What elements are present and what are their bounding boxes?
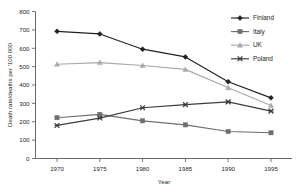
y-tick-label-100: 100 bbox=[19, 136, 30, 143]
datapoint-poland-1970 bbox=[55, 123, 60, 128]
datapoint-italy-1980 bbox=[140, 119, 144, 123]
y-tick-label-800: 800 bbox=[19, 8, 30, 15]
legend-label-italy: Italy bbox=[253, 28, 266, 36]
legend-marker-poland bbox=[238, 56, 243, 61]
datapoint-italy-1985 bbox=[183, 123, 187, 127]
y-tick-label-500: 500 bbox=[19, 63, 30, 70]
legend-item-italy[interactable]: Italy bbox=[231, 28, 266, 36]
y-tick-label-700: 700 bbox=[19, 26, 30, 33]
chart-legend: FinlandItalyUKPoland bbox=[231, 14, 274, 62]
series-line-italy bbox=[57, 114, 271, 132]
legend-item-poland[interactable]: Poland bbox=[231, 55, 273, 62]
legend-item-uk[interactable]: UK bbox=[231, 41, 263, 48]
datapoint-poland-1980 bbox=[140, 105, 145, 110]
legend-label-poland: Poland bbox=[253, 55, 273, 62]
datapoint-finland-1980 bbox=[140, 47, 145, 52]
x-tick-label-1985: 1985 bbox=[179, 165, 193, 172]
y-axis-ticks bbox=[32, 12, 36, 159]
series-poland bbox=[55, 100, 274, 128]
series-line-uk bbox=[57, 63, 271, 106]
legend-item-finland[interactable]: Finland bbox=[231, 14, 274, 21]
datapoint-italy-1970 bbox=[55, 116, 59, 120]
x-axis-ticks bbox=[57, 159, 271, 163]
datapoint-poland-1990 bbox=[226, 100, 231, 105]
series-uk bbox=[55, 60, 274, 107]
y-axis-tick-labels: 0 100 200 300 400 500 600 700 800 bbox=[19, 8, 30, 162]
legend-label-finland: Finland bbox=[253, 14, 274, 21]
datapoint-finland-1975 bbox=[97, 31, 102, 36]
datapoint-poland-1995 bbox=[269, 109, 274, 114]
y-tick-label-400: 400 bbox=[19, 81, 30, 88]
datapoint-finland-1970 bbox=[55, 29, 60, 34]
x-tick-label-1980: 1980 bbox=[136, 165, 150, 172]
x-tick-label-1995: 1995 bbox=[264, 165, 278, 172]
x-tick-label-1975: 1975 bbox=[93, 165, 107, 172]
x-tick-label-1990: 1990 bbox=[221, 165, 235, 172]
y-tick-label-600: 600 bbox=[19, 45, 30, 52]
x-axis-title: Year bbox=[158, 178, 170, 185]
y-axis-title: Death rate/deaths per '100 000 bbox=[6, 42, 13, 126]
series-italy bbox=[55, 112, 273, 135]
series-line-poland bbox=[57, 102, 271, 126]
line-chart: 0 100 200 300 400 500 600 700 800 1970 1… bbox=[0, 0, 299, 192]
datapoint-italy-1995 bbox=[269, 131, 273, 135]
series-finland bbox=[55, 29, 274, 101]
datapoint-finland-1990 bbox=[226, 79, 231, 84]
datapoint-italy-1990 bbox=[226, 129, 230, 133]
y-tick-label-200: 200 bbox=[19, 118, 30, 125]
y-tick-label-300: 300 bbox=[19, 100, 30, 107]
datapoint-finland-1985 bbox=[183, 54, 188, 59]
datapoint-finland-1995 bbox=[269, 95, 274, 100]
legend-label-uk: UK bbox=[253, 41, 263, 48]
y-tick-label-0: 0 bbox=[26, 155, 30, 162]
x-axis-tick-labels: 1970 1975 1980 1985 1990 1995 bbox=[50, 165, 278, 172]
legend-marker-finland bbox=[238, 16, 243, 21]
x-tick-label-1970: 1970 bbox=[50, 165, 64, 172]
datapoint-poland-1985 bbox=[183, 102, 188, 107]
series-line-finland bbox=[57, 31, 271, 98]
legend-marker-italy bbox=[238, 29, 242, 33]
